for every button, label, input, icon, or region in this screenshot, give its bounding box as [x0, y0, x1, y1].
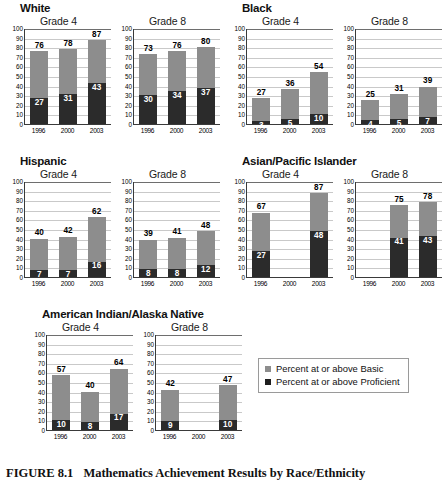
y-axis-tick: 100 — [34, 332, 45, 338]
bar-group-2000: 418 — [168, 182, 186, 277]
bar-group-1996: 407 — [30, 182, 48, 277]
y-axis-tick: 30 — [347, 246, 354, 252]
y-axis-tick: 20 — [147, 409, 154, 415]
bar-group-2003: 397 — [419, 29, 437, 124]
bar-group-2000: 7634 — [168, 29, 186, 124]
bar-group-2003: 8743 — [88, 29, 106, 124]
bar-group-2003: 8037 — [197, 29, 215, 124]
y-axis-tick: 10 — [238, 112, 245, 118]
y-axis-tick: 20 — [38, 409, 45, 415]
x-axis: 199620002003 — [24, 278, 111, 287]
x-axis: 199620002003 — [133, 125, 220, 134]
figure-number: FIGURE 8.1 — [6, 466, 73, 480]
y-axis-tick: 0 — [150, 428, 154, 434]
y-axis-tick: 20 — [238, 256, 245, 262]
y-axis-tick: 90 — [16, 188, 23, 194]
y-axis-tick: 80 — [16, 45, 23, 51]
bar-label-basic: 47 — [223, 376, 232, 384]
panel-white-grade-8: Grade 8100908070605040302010073307634803… — [115, 15, 220, 134]
bar-label-basic: 78 — [423, 193, 432, 201]
x-axis-tick: 2003 — [88, 280, 106, 287]
plot-area: 57104086417 — [46, 335, 133, 431]
bar-label-proficient: 5 — [397, 120, 402, 128]
bar-label-basic: 76 — [35, 42, 44, 50]
y-axis-tick: 20 — [238, 103, 245, 109]
bar-group-1996: 273 — [252, 29, 270, 124]
y-axis-tick: 70 — [347, 208, 354, 214]
panel-hispanic-grade-8: Grade 8100908070605040302010039841848121… — [115, 168, 220, 287]
bar-group-1996: 7330 — [139, 29, 157, 124]
y-axis-tick: 40 — [16, 83, 23, 89]
y-axis-tick: 90 — [347, 35, 354, 41]
x-axis-tick: 1996 — [252, 280, 270, 287]
y-axis-tick: 90 — [16, 35, 23, 41]
x-axis-tick: 1996 — [139, 127, 157, 134]
plot-area: 4074276216 — [24, 182, 111, 278]
bar-group-2000: 315 — [390, 29, 408, 124]
y-axis-tick: 0 — [241, 122, 245, 128]
bar-label-basic: 54 — [314, 63, 323, 71]
bar-label-proficient: 4 — [368, 121, 373, 129]
group-title: Hispanic — [20, 155, 220, 167]
bar-group-2003: 7843 — [419, 182, 437, 277]
x-axis-tick: 2003 — [310, 280, 328, 287]
bar-label-proficient: 8 — [146, 270, 151, 278]
panel-american-indian-alaska-native-grade-8: Grade 8100908070605040302010042947101996… — [137, 321, 242, 440]
y-axis-tick: 30 — [125, 246, 132, 252]
bar-label-basic: 75 — [394, 196, 403, 204]
group-asian-pacific-islander: Asian/Pacific IslanderGrade 410090807060… — [228, 155, 442, 287]
y-axis-tick: 30 — [16, 246, 23, 252]
y-axis-tick: 40 — [238, 236, 245, 242]
group-title: White — [20, 2, 220, 14]
y-axis-tick: 30 — [238, 93, 245, 99]
bar-label-basic: 36 — [285, 80, 294, 88]
x-axis-tick: 2003 — [310, 127, 328, 134]
y-axis-tick: 20 — [347, 103, 354, 109]
y-axis-tick: 10 — [347, 265, 354, 271]
y-axis-tick: 100 — [343, 179, 354, 185]
bar-group-1996: 5710 — [52, 335, 70, 430]
x-axis-tick: 2003 — [219, 433, 237, 440]
legend-item-proficient: Percent at or above Proficient — [265, 376, 400, 389]
y-axis-tick: 60 — [38, 370, 45, 376]
y-axis-tick: 60 — [16, 217, 23, 223]
x-axis-tick: 2003 — [197, 280, 215, 287]
bar-label-basic: 62 — [92, 208, 101, 216]
y-axis-tick: 80 — [125, 45, 132, 51]
y-axis-tick: 80 — [238, 198, 245, 204]
y-axis-tick: 80 — [38, 351, 45, 357]
y-axis-tick: 40 — [147, 389, 154, 395]
x-axis: 199620002003 — [46, 431, 133, 440]
x-axis-tick: 2000 — [190, 433, 208, 440]
bar-label-basic: 87 — [92, 31, 101, 39]
group-title: American Indian/Alaska Native — [42, 308, 242, 320]
bar-label-basic: 64 — [114, 359, 123, 367]
bar-series: 762778318743 — [25, 29, 111, 124]
y-axis-tick: 70 — [125, 55, 132, 61]
bar-group-2000: 7831 — [59, 29, 77, 124]
y-axis-tick: 100 — [143, 332, 154, 338]
y-axis-tick: 60 — [347, 64, 354, 70]
group-title: Asian/Pacific Islander — [242, 155, 442, 167]
bar-label-basic: 48 — [201, 222, 210, 230]
y-axis-tick: 100 — [121, 179, 132, 185]
bar-label-basic: 25 — [366, 91, 375, 99]
bar-label-basic: 80 — [201, 38, 210, 46]
y-axis-tick: 20 — [125, 256, 132, 262]
y-axis-tick: 50 — [125, 74, 132, 80]
y-axis-tick: 20 — [125, 103, 132, 109]
y-axis-tick: 40 — [38, 389, 45, 395]
y-axis-tick: 0 — [19, 275, 23, 281]
y-axis-tick: 10 — [238, 265, 245, 271]
legend-item-basic: Percent at or above Basic — [265, 363, 400, 376]
bar-label-basic: 76 — [172, 42, 181, 50]
y-axis-tick: 40 — [16, 236, 23, 242]
bar-group-2000: 365 — [281, 29, 299, 124]
plot-area: 75417843 — [355, 182, 442, 278]
bar-label-basic: 73 — [144, 45, 153, 53]
y-axis-tick: 50 — [38, 380, 45, 386]
x-axis-tick: 2003 — [88, 127, 106, 134]
y-axis-tick: 0 — [19, 122, 23, 128]
x-axis-tick: 2003 — [110, 433, 128, 440]
bar-series: 4074276216 — [25, 182, 111, 277]
